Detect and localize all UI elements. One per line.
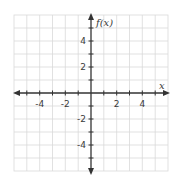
x-tick-label: 2	[114, 99, 120, 109]
y-axis-down-arrow-icon	[88, 168, 94, 175]
y-tick-label: -2	[77, 114, 86, 124]
y-tick-label: 2	[80, 62, 86, 72]
x-tick-label: 4	[139, 99, 145, 109]
x-tick-label: -4	[35, 99, 44, 109]
x-tick-label: -2	[61, 99, 70, 109]
y-axis	[88, 13, 94, 175]
y-axis-label: f(x)	[95, 17, 113, 28]
y-axis-up-arrow-icon	[88, 13, 94, 20]
coordinate-plane: f(x) x -4 -2 2 4 4 2 -2 -4	[0, 0, 174, 178]
y-tick-label: 4	[80, 36, 86, 46]
x-axis-label: x	[159, 80, 165, 91]
y-tick-label: -4	[77, 140, 86, 150]
